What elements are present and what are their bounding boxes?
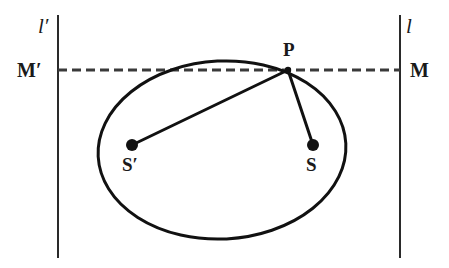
diagram-canvas <box>0 0 449 268</box>
focus-s-prime-label: S′ <box>122 155 138 174</box>
ellipse-diagram-figure: l′ l M′ M P S′ S <box>0 0 449 268</box>
directrix-left-label: l′ <box>38 16 48 37</box>
focal-radius-p-to-s-prime <box>132 70 288 145</box>
focal-radius-p-to-s <box>288 70 313 145</box>
directrix-right-label: l <box>406 16 412 37</box>
foot-point-m-prime-label: M′ <box>17 60 42 80</box>
focus-s-label: S <box>306 155 317 174</box>
foot-point-m-label: M <box>410 60 429 80</box>
focus-point-s-prime <box>126 139 138 151</box>
curve-point-p <box>285 67 291 73</box>
focus-point-s <box>307 139 319 151</box>
curve-point-p-label: P <box>283 40 295 59</box>
